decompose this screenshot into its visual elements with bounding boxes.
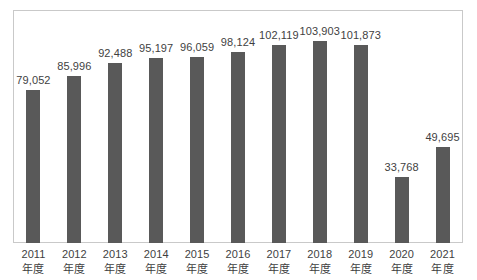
bar-value-label: 101,873 — [340, 30, 380, 41]
bar-slot: 103,903 — [299, 10, 340, 243]
category-label-suffix: 年度 — [340, 262, 381, 277]
bar-slot: 96,059 — [177, 10, 218, 243]
bar[interactable]: 85,996 — [67, 76, 81, 243]
category-label: 2015年度 — [177, 247, 218, 277]
bar-chart: 79,05285,99692,48895,19796,05998,124102,… — [0, 0, 477, 280]
bar-slot: 92,488 — [95, 10, 136, 243]
category-label: 2021年度 — [422, 247, 463, 277]
category-label-year: 2018 — [299, 247, 340, 262]
category-label: 2016年度 — [218, 247, 259, 277]
category-label: 2018年度 — [299, 247, 340, 277]
bar-value-label: 95,197 — [139, 43, 173, 54]
bar-slot: 33,768 — [381, 10, 422, 243]
category-label: 2011年度 — [13, 247, 54, 277]
bar-value-label: 102,119 — [259, 30, 299, 41]
category-label: 2013年度 — [95, 247, 136, 277]
bar[interactable]: 103,903 — [313, 41, 327, 243]
category-label: 2019年度 — [340, 247, 381, 277]
bar-value-label: 33,768 — [384, 162, 418, 173]
category-label-suffix: 年度 — [422, 262, 463, 277]
category-label-suffix: 年度 — [381, 262, 422, 277]
bar[interactable]: 95,197 — [149, 58, 163, 243]
category-label-suffix: 年度 — [218, 262, 259, 277]
bar-value-label: 92,488 — [98, 48, 132, 59]
category-label-suffix: 年度 — [13, 262, 54, 277]
category-label-suffix: 年度 — [258, 262, 299, 277]
category-label-year: 2020 — [381, 247, 422, 262]
category-axis: 2011年度2012年度2013年度2014年度2015年度2016年度2017… — [13, 247, 463, 277]
bar[interactable]: 102,119 — [272, 45, 286, 243]
category-label-suffix: 年度 — [54, 262, 95, 277]
bar[interactable]: 49,695 — [436, 147, 450, 243]
category-label-year: 2014 — [136, 247, 177, 262]
bar-slot: 49,695 — [422, 10, 463, 243]
category-label-suffix: 年度 — [299, 262, 340, 277]
bar-value-label: 49,695 — [425, 132, 459, 143]
bar-slot: 102,119 — [258, 10, 299, 243]
category-label-year: 2013 — [95, 247, 136, 262]
bar-slot: 95,197 — [136, 10, 177, 243]
category-label-year: 2017 — [258, 247, 299, 262]
category-label-suffix: 年度 — [95, 262, 136, 277]
bar-slot: 85,996 — [54, 10, 95, 243]
bar-value-label: 96,059 — [180, 42, 214, 53]
bars-container: 79,05285,99692,48895,19796,05998,124102,… — [13, 10, 463, 243]
category-label-year: 2021 — [422, 247, 463, 262]
category-label-year: 2011 — [13, 247, 54, 262]
bar-value-label: 85,996 — [57, 61, 91, 72]
category-label-year: 2015 — [177, 247, 218, 262]
bar[interactable]: 79,052 — [26, 90, 40, 243]
bar[interactable]: 98,124 — [231, 52, 245, 243]
category-label-suffix: 年度 — [177, 262, 218, 277]
bar-value-label: 103,903 — [300, 26, 340, 37]
bar-slot: 79,052 — [13, 10, 54, 243]
category-label-year: 2012 — [54, 247, 95, 262]
category-label-suffix: 年度 — [136, 262, 177, 277]
category-label: 2014年度 — [136, 247, 177, 277]
bar-slot: 101,873 — [340, 10, 381, 243]
category-label: 2012年度 — [54, 247, 95, 277]
bar[interactable]: 96,059 — [190, 57, 204, 244]
category-label: 2017年度 — [258, 247, 299, 277]
category-label: 2020年度 — [381, 247, 422, 277]
category-label-year: 2016 — [218, 247, 259, 262]
bar-value-label: 79,052 — [16, 75, 50, 86]
bar-slot: 98,124 — [218, 10, 259, 243]
bar[interactable]: 92,488 — [108, 63, 122, 243]
category-label-year: 2019 — [340, 247, 381, 262]
bar[interactable]: 101,873 — [354, 45, 368, 243]
bar[interactable]: 33,768 — [395, 177, 409, 243]
bar-value-label: 98,124 — [221, 37, 255, 48]
